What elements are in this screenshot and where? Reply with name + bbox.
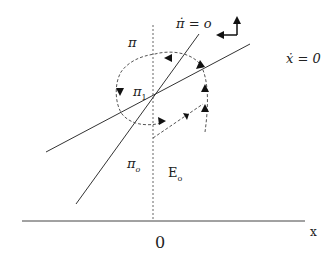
x-dot-equation: ẋ = 0 <box>286 52 321 65</box>
pio-label: πo <box>127 157 140 174</box>
pi-label: π <box>128 36 137 49</box>
e0-label: Eo <box>168 166 182 183</box>
key-arrow-left-icon <box>216 31 224 39</box>
arrow-up-icon <box>201 84 209 92</box>
arrow-up-icon <box>196 60 205 69</box>
x-axis-label: x <box>310 226 317 238</box>
arrow-down-icon <box>116 88 124 96</box>
diagram-canvas <box>0 0 333 265</box>
arrow-right-icon <box>158 117 166 125</box>
phase-diagram: π̇ = o ẋ = 0 π π1 πo Eo 0 x <box>0 0 333 265</box>
origin-label: 0 <box>155 235 165 251</box>
pi1-label: π1 <box>133 85 147 102</box>
pi-dot-equation: π̇ = o <box>176 17 212 30</box>
x-dot-zero-line <box>46 44 250 152</box>
key-arrow-up-icon <box>233 16 241 24</box>
arrow-left-icon <box>164 54 172 62</box>
